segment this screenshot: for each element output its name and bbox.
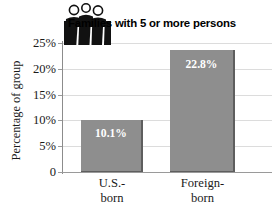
- x-label-foreign-born-line2: born: [170, 191, 235, 206]
- x-label-foreign-born: Foreign- born: [170, 176, 235, 205]
- x-axis-line: [62, 172, 272, 173]
- gridline-20: [63, 69, 272, 70]
- bar-us-born: 10.1%: [81, 120, 143, 172]
- gridline-15: [63, 95, 272, 96]
- bar-value-foreign-born: 22.8%: [170, 59, 233, 71]
- x-label-foreign-born-line1: Foreign-: [170, 176, 235, 191]
- x-label-us-born-line2: born: [81, 191, 143, 206]
- y-axis-line: [62, 41, 63, 174]
- y-axis-title: Percentage of group: [10, 41, 23, 181]
- x-label-us-born-line1: U.S.-: [81, 176, 143, 191]
- x-label-us-born: U.S.- born: [81, 176, 143, 205]
- bar-foreign-born: 22.8%: [170, 50, 235, 172]
- bar-chart: 25% 20% 15% 10% 5% 0 Percentage of group…: [0, 0, 272, 209]
- bar-value-us-born: 10.1%: [81, 128, 141, 140]
- chart-title: Families with 5 or more persons: [68, 17, 272, 30]
